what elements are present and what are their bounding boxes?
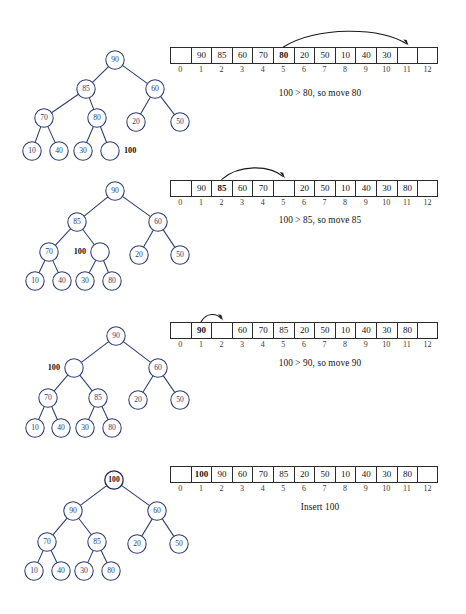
tree-node-85[interactable]: 85 bbox=[68, 213, 86, 231]
tree-node-90[interactable]: 90 bbox=[64, 502, 82, 520]
array-cell-12[interactable] bbox=[417, 47, 438, 64]
tree-node-85[interactable]: 85 bbox=[88, 533, 106, 551]
array-cell-0[interactable] bbox=[170, 47, 191, 64]
tree-node-50[interactable]: 50 bbox=[170, 535, 188, 553]
array-cell-8[interactable]: 10 bbox=[335, 322, 356, 339]
tree-node-10[interactable]: 10 bbox=[26, 419, 44, 437]
array-cell-12[interactable] bbox=[417, 322, 438, 339]
tree-node-100[interactable]: 100 bbox=[105, 471, 123, 489]
array-cell-3[interactable]: 60 bbox=[232, 322, 253, 339]
array-cell-7[interactable]: 50 bbox=[314, 47, 335, 64]
tree-node-70[interactable]: 70 bbox=[40, 243, 58, 261]
tree-node-70[interactable]: 70 bbox=[35, 109, 53, 127]
array-cells: 90856070802050104030 bbox=[170, 47, 466, 64]
tree-node-empty[interactable] bbox=[91, 243, 109, 261]
tree-node-90[interactable]: 90 bbox=[106, 51, 124, 69]
tree-node-80[interactable]: 80 bbox=[102, 562, 120, 580]
array-cell-8[interactable]: 10 bbox=[335, 47, 356, 64]
tree-node-30[interactable]: 30 bbox=[76, 419, 94, 437]
tree-node-empty[interactable] bbox=[65, 359, 83, 377]
array-cell-3[interactable]: 60 bbox=[232, 180, 253, 197]
array-cell-2[interactable] bbox=[211, 322, 232, 339]
array-cell-11[interactable]: 80 bbox=[397, 322, 418, 339]
array-cell-12[interactable] bbox=[417, 180, 438, 197]
array-cell-10[interactable]: 30 bbox=[376, 47, 397, 64]
array-cell-8[interactable]: 10 bbox=[335, 180, 356, 197]
array-cell-11[interactable]: 80 bbox=[397, 466, 418, 483]
array-cell-2[interactable]: 90 bbox=[211, 466, 232, 483]
array-cell-10[interactable]: 30 bbox=[376, 180, 397, 197]
tree-node-label: 85 bbox=[82, 84, 90, 93]
tree-node-label: 60 bbox=[151, 84, 159, 93]
tree-node-60[interactable]: 60 bbox=[146, 80, 164, 98]
tree-node-90[interactable]: 90 bbox=[107, 327, 125, 345]
array-cell-1[interactable]: 100 bbox=[191, 466, 212, 483]
array-cell-3[interactable]: 60 bbox=[232, 466, 253, 483]
tree-node-85[interactable]: 85 bbox=[89, 389, 107, 407]
array-cell-7[interactable]: 50 bbox=[314, 322, 335, 339]
array-cell-10[interactable]: 30 bbox=[376, 466, 397, 483]
tree-node-60[interactable]: 60 bbox=[148, 502, 166, 520]
array-cell-4[interactable]: 70 bbox=[252, 47, 273, 64]
array-cell-8[interactable]: 10 bbox=[335, 466, 356, 483]
array-cell-9[interactable]: 40 bbox=[355, 466, 376, 483]
tree-node-60[interactable]: 60 bbox=[149, 359, 167, 377]
tree-node-85[interactable]: 85 bbox=[77, 80, 95, 98]
array-cell-5[interactable] bbox=[273, 180, 294, 197]
array-cell-7[interactable]: 50 bbox=[314, 466, 335, 483]
array-cell-1[interactable]: 90 bbox=[191, 47, 212, 64]
tree-node-90[interactable]: 90 bbox=[106, 182, 124, 200]
step-caption-3: 100 > 90, so move 90 bbox=[170, 358, 466, 368]
tree-node-label: 10 bbox=[30, 566, 38, 575]
array-cell-2[interactable]: 85 bbox=[211, 47, 232, 64]
tree-node-80[interactable]: 80 bbox=[103, 272, 121, 290]
array-index-12: 12 bbox=[417, 340, 438, 349]
array-cell-6[interactable]: 20 bbox=[294, 466, 315, 483]
array-cell-4[interactable]: 70 bbox=[252, 180, 273, 197]
array-index-6: 6 bbox=[294, 65, 315, 74]
array-cell-10[interactable]: 30 bbox=[376, 322, 397, 339]
tree-node-10[interactable]: 10 bbox=[25, 562, 43, 580]
array-cell-4[interactable]: 70 bbox=[252, 322, 273, 339]
array-cell-0[interactable] bbox=[170, 180, 191, 197]
array-cell-6[interactable]: 20 bbox=[294, 47, 315, 64]
tree-node-80[interactable]: 80 bbox=[103, 419, 121, 437]
array-cell-0[interactable] bbox=[170, 466, 191, 483]
array-cell-7[interactable]: 50 bbox=[314, 180, 335, 197]
array-cell-6[interactable]: 20 bbox=[294, 180, 315, 197]
tree-node-20[interactable]: 20 bbox=[129, 391, 147, 409]
tree-node-50[interactable]: 50 bbox=[171, 246, 189, 264]
array-cell-11[interactable] bbox=[397, 47, 418, 64]
array-cell-1[interactable]: 90 bbox=[191, 322, 212, 339]
array-cell-6[interactable]: 20 bbox=[294, 322, 315, 339]
array-cell-4[interactable]: 70 bbox=[252, 466, 273, 483]
array-cell-5[interactable]: 80 bbox=[273, 47, 294, 64]
tree-node-70[interactable]: 70 bbox=[39, 389, 57, 407]
tree-node-30[interactable]: 30 bbox=[76, 272, 94, 290]
tree-node-20[interactable]: 20 bbox=[127, 113, 145, 131]
array-cell-9[interactable]: 40 bbox=[355, 322, 376, 339]
array-cell-9[interactable]: 40 bbox=[355, 180, 376, 197]
tree-node-20[interactable]: 20 bbox=[128, 535, 146, 553]
tree-node-70[interactable]: 70 bbox=[38, 533, 56, 551]
array-cell-9[interactable]: 40 bbox=[355, 47, 376, 64]
tree-node-40[interactable]: 40 bbox=[52, 419, 70, 437]
tree-node-10[interactable]: 10 bbox=[26, 272, 44, 290]
array-cell-3[interactable]: 60 bbox=[232, 47, 253, 64]
array-cell-5[interactable]: 85 bbox=[273, 466, 294, 483]
tree-node-40[interactable]: 40 bbox=[52, 562, 70, 580]
tree-node-60[interactable]: 60 bbox=[149, 213, 167, 231]
array-cell-11[interactable]: 80 bbox=[397, 180, 418, 197]
array-cell-5[interactable]: 85 bbox=[273, 322, 294, 339]
tree-node-80[interactable]: 80 bbox=[88, 109, 106, 127]
array-cell-1[interactable]: 90 bbox=[191, 180, 212, 197]
array-cell-0[interactable] bbox=[170, 322, 191, 339]
array-cell-12[interactable] bbox=[417, 466, 438, 483]
tree-node-50[interactable]: 50 bbox=[171, 113, 189, 131]
tree-edge bbox=[51, 550, 57, 562]
array-cell-2[interactable]: 85 bbox=[211, 180, 232, 197]
tree-node-50[interactable]: 50 bbox=[171, 391, 189, 409]
tree-node-40[interactable]: 40 bbox=[53, 272, 71, 290]
tree-node-20[interactable]: 20 bbox=[130, 246, 148, 264]
tree-node-30[interactable]: 30 bbox=[75, 562, 93, 580]
